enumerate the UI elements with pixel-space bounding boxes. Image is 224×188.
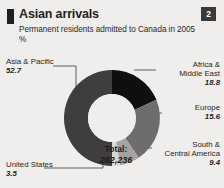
leader-line-asia bbox=[53, 66, 76, 90]
panel-subtitle: Permanent residents admitted to Canada i… bbox=[19, 25, 195, 34]
callout-africa-middle-east: Africa & Middle East 18.8 bbox=[179, 60, 220, 88]
callout-label-europe: Europe bbox=[195, 103, 220, 112]
donut-center-label: Total: 262,236 bbox=[90, 145, 142, 165]
panel-header: Asian arrivals Permanent residents admit… bbox=[0, 0, 224, 52]
title-accent-bar bbox=[7, 9, 14, 24]
callout-value-united-states: 3.5 bbox=[6, 169, 53, 178]
callout-value-europe: 15.6 bbox=[195, 112, 220, 121]
total-value: 262,236 bbox=[90, 155, 142, 165]
callout-label-south-line2: Central America bbox=[165, 149, 220, 158]
callout-label-united-states: United States bbox=[6, 160, 53, 169]
unit-label: % bbox=[19, 35, 26, 44]
callout-value-asia-pacific: 52.7 bbox=[6, 66, 54, 75]
infographic-panel: Asian arrivals Permanent residents admit… bbox=[0, 0, 224, 188]
callout-south-central-america: South & Central America 9.4 bbox=[165, 140, 220, 168]
total-label: Total: bbox=[90, 145, 142, 155]
badge-number: 2 bbox=[201, 7, 216, 21]
callout-label-south-line1: South & bbox=[165, 140, 220, 149]
donut-hole bbox=[88, 94, 136, 142]
callout-value-south-central-america: 9.4 bbox=[165, 158, 220, 167]
callout-value-africa-middle-east: 18.8 bbox=[179, 78, 220, 87]
callout-label-africa-line2: Middle East bbox=[179, 69, 220, 78]
callout-united-states: United States 3.5 bbox=[6, 160, 53, 178]
callout-asia-pacific: Asia & Pacific 52.7 bbox=[6, 57, 54, 75]
page-title: Asian arrivals bbox=[19, 7, 99, 21]
callout-europe: Europe 15.6 bbox=[195, 103, 220, 121]
callout-label-asia-pacific: Asia & Pacific bbox=[6, 57, 54, 66]
callout-label-africa-line1: Africa & bbox=[179, 60, 220, 69]
